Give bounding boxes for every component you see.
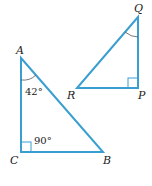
triangles-diagram: A C B Q R P 42° 90°: [0, 0, 152, 186]
triangle-pqr: [77, 17, 138, 88]
vertex-label-q: Q: [134, 2, 143, 15]
vertex-label-r: R: [66, 89, 75, 102]
vertex-label-c: C: [10, 154, 19, 167]
vertex-label-b: B: [102, 154, 111, 167]
vertex-label-a: A: [15, 44, 24, 57]
angle-a-arc: [21, 75, 36, 80]
angle-a-value: 42°: [25, 86, 43, 97]
angle-c-value: 90°: [34, 135, 52, 146]
vertex-label-p: P: [137, 89, 146, 102]
right-angle-p-marker: [128, 78, 138, 88]
angle-q-arc: [125, 32, 138, 37]
right-angle-c-marker: [21, 142, 31, 152]
